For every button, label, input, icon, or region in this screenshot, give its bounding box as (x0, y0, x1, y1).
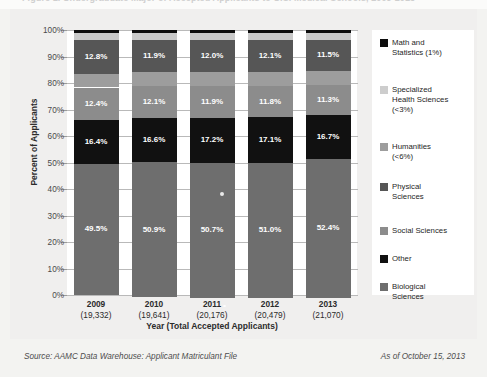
bar-segment-label: 50.9% (143, 226, 166, 234)
bar-segment (74, 74, 119, 88)
bar-segment: 17.1% (248, 117, 293, 162)
bar-segment-label: 11.3% (317, 96, 339, 104)
scan-artifact (223, 305, 226, 307)
bar-segment-label: 12.4% (85, 100, 108, 108)
bar-segment-label: 16.6% (143, 136, 166, 144)
y-tick-label: 30% (24, 211, 64, 220)
x-axis-title: Year (Total Accepted Applicants) (67, 321, 357, 331)
bar-segment: 16.6% (132, 118, 177, 162)
bar-segment-label: 12.8% (85, 53, 108, 61)
y-tick-label: 0% (24, 291, 64, 300)
bar-segment: 50.9% (132, 162, 177, 297)
legend-label: Other (392, 254, 412, 264)
bar-stack: 12.0%11.9%17.2%50.7% (190, 9, 235, 339)
bar-stack: 12.8%12.4%16.4%49.5% (74, 9, 119, 339)
bar-segment: 17.2% (190, 118, 235, 164)
bar-segment-label: 12.0% (201, 52, 224, 60)
bar-segment-label: 52.4% (317, 224, 340, 232)
bar-segment (74, 33, 119, 40)
bar-segment-label: 17.1% (259, 136, 282, 144)
bar-segment-label: 11.9% (143, 52, 165, 60)
legend-swatch (380, 143, 388, 151)
legend-label: PhysicalSciences (392, 182, 424, 202)
legend-item[interactable]: Humanities(<6%) (380, 142, 472, 162)
bar-stack: 11.9%12.1%16.6%50.9% (132, 9, 177, 339)
legend-swatch (380, 227, 388, 235)
y-tick-label: 50% (24, 158, 64, 167)
bar-segment (132, 72, 177, 87)
bar-segment: 51.0% (248, 163, 293, 298)
legend-item[interactable]: Math andStatistics (1%) (380, 38, 472, 58)
bar-segment (190, 72, 235, 86)
bar-segment-label: 11.8% (259, 98, 281, 106)
legend-label: Math andStatistics (1%) (392, 38, 442, 58)
x-tick-label: 2013(21,070) (293, 299, 363, 321)
bar-segment: 50.7% (190, 163, 235, 297)
source-note: Source: AAMC Data Warehouse: Applicant M… (24, 352, 237, 361)
y-tick-label: 70% (24, 105, 64, 114)
bar-segment-label: 16.4% (85, 138, 108, 146)
legend-item[interactable]: Social Sciences (380, 226, 472, 236)
bar-segment-label: 49.5% (85, 225, 108, 233)
bar-segment-label: 12.1% (259, 52, 282, 60)
bar-segment-label: 11.9% (201, 98, 223, 106)
legend-swatch (380, 183, 388, 191)
bar-segment-label: 17.2% (201, 136, 224, 144)
chart-title-cropped: Figure 1. Undergraduate Major of Accepte… (22, 0, 415, 3)
legend-item[interactable]: Other (380, 254, 472, 264)
bar-segment (306, 71, 351, 85)
bar-segment (132, 33, 177, 40)
y-tick-label: 90% (24, 52, 64, 61)
bar-segment: 11.3% (306, 85, 351, 115)
bar-segment-label: 16.7% (317, 133, 340, 141)
bar-segment: 12.0% (190, 40, 235, 72)
y-tick-label: 40% (24, 185, 64, 194)
cropped-title-strip: Figure 1. Undergraduate Major of Accepte… (0, 0, 487, 9)
bar-segment: 11.9% (132, 40, 177, 72)
bar-segment (190, 33, 235, 40)
x-tick-year: 2013 (293, 299, 363, 310)
bar-segment: 11.5% (306, 40, 351, 70)
bar-segment-label: 12.1% (143, 98, 166, 106)
y-tick-label: 100% (24, 26, 64, 35)
legend-label: Social Sciences (392, 226, 447, 236)
bar-stack: 12.1%11.8%17.1%51.0% (248, 9, 293, 339)
legend-item[interactable]: BiologicalSciences (380, 282, 472, 302)
bar-segment: 49.5% (74, 164, 119, 295)
bar-segment-label: 50.7% (201, 226, 224, 234)
as-of-note: As of October 15, 2013 (381, 352, 465, 361)
bar-segment: 12.4% (74, 88, 119, 121)
bar-segment: 16.4% (74, 120, 119, 163)
bar-segment (248, 33, 293, 40)
bar-segment: 52.4% (306, 159, 351, 298)
x-tick-count: (21,070) (293, 310, 363, 321)
bar-segment (248, 72, 293, 86)
bar-segment: 11.8% (248, 86, 293, 117)
bar-segment-label: 11.5% (317, 51, 339, 59)
bar-segment: 12.1% (132, 86, 177, 118)
legend-item[interactable]: SpecializedHealth Sciences(<3%) (380, 85, 472, 115)
y-tick-label: 80% (24, 79, 64, 88)
y-tick-label: 20% (24, 238, 64, 247)
scan-artifact (293, 122, 296, 125)
bar-stack: 11.5%11.3%16.7%52.4% (306, 9, 351, 339)
bar-segment: 12.8% (74, 40, 119, 74)
legend-swatch (380, 283, 388, 291)
legend-label: Humanities(<6%) (392, 142, 431, 162)
bar-segment: 16.7% (306, 115, 351, 159)
legend-item[interactable]: PhysicalSciences (380, 182, 472, 202)
y-tick-label: 60% (24, 132, 64, 141)
chart-legend: Math andStatistics (1%)SpecializedHealth… (372, 30, 474, 295)
bar-segment-label: 51.0% (259, 226, 282, 234)
legend-swatch (380, 255, 388, 263)
y-tick-label: 10% (24, 264, 64, 273)
legend-swatch (380, 86, 388, 94)
legend-label: SpecializedHealth Sciences(<3%) (392, 85, 448, 115)
legend-label: BiologicalSciences (392, 282, 425, 302)
scan-artifact (220, 192, 224, 196)
legend-swatch (380, 39, 388, 47)
bar-segment (306, 33, 351, 40)
bar-segment: 11.9% (190, 86, 235, 118)
bar-segment: 12.1% (248, 40, 293, 72)
chart-card: Percent of Applicants 0%10%20%30%40%50%6… (10, 9, 477, 339)
